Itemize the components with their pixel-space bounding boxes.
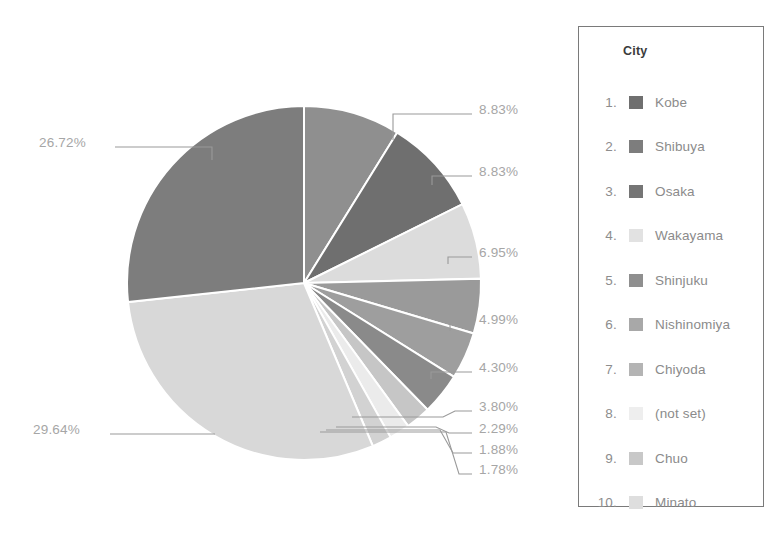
legend-item-index: 10. <box>591 495 617 510</box>
leader-line-1 <box>393 114 472 140</box>
legend-item-minato[interactable]: 10.Minato <box>579 481 763 526</box>
legend-swatch-icon <box>629 452 643 465</box>
slice-percent-label-11: 26.72% <box>39 135 86 150</box>
legend-item-kobe[interactable]: 1.Kobe <box>579 80 763 125</box>
legend-item-index: 8. <box>591 406 617 421</box>
slice-percent-label-5: 4.30% <box>479 360 518 375</box>
slice-percent-label-7: 2.29% <box>479 421 518 436</box>
slice-percent-label-1: 8.83% <box>479 102 518 117</box>
legend-item-label: Minato <box>655 495 696 510</box>
legend-item-index: 4. <box>591 228 617 243</box>
legend-item-label: Kobe <box>655 95 687 110</box>
legend-item-index: 2. <box>591 139 617 154</box>
legend-item-index: 3. <box>591 184 617 199</box>
legend-item-osaka[interactable]: 3.Osaka <box>579 169 763 214</box>
slice-percent-label-10: 29.64% <box>33 422 80 437</box>
legend-swatch-icon <box>629 185 643 198</box>
legend-item-index: 1. <box>591 95 617 110</box>
legend-box[interactable]: City 1.Kobe2.Shibuya3.Osaka4.Wakayama5.S… <box>578 26 764 507</box>
legend-item-chuo[interactable]: 9.Chuo <box>579 436 763 481</box>
legend-item-list[interactable]: 1.Kobe2.Shibuya3.Osaka4.Wakayama5.Shinju… <box>579 80 763 525</box>
pie-slice-group[interactable] <box>127 106 481 460</box>
legend-item-nishinomiya[interactable]: 6.Nishinomiya <box>579 303 763 348</box>
legend-swatch-icon <box>629 140 643 153</box>
legend-swatch-icon <box>629 407 643 420</box>
legend-item-label: (not set) <box>655 406 706 421</box>
pie-slice-11[interactable] <box>127 106 304 302</box>
legend-swatch-icon <box>629 318 643 331</box>
legend-item-index: 6. <box>591 317 617 332</box>
legend-swatch-icon <box>629 274 643 287</box>
legend-swatch-icon <box>629 496 643 509</box>
legend-item-not-set[interactable]: 8.(not set) <box>579 392 763 437</box>
legend-item-label: Nishinomiya <box>655 317 730 332</box>
legend-item-label: Shibuya <box>655 139 705 154</box>
legend-item-shinjuku[interactable]: 5.Shinjuku <box>579 258 763 303</box>
legend-item-index: 9. <box>591 451 617 466</box>
slice-percent-label-8: 1.88% <box>479 442 518 457</box>
slice-percent-label-9: 1.78% <box>479 462 518 477</box>
slice-percent-label-2: 8.83% <box>479 164 518 179</box>
legend-item-label: Shinjuku <box>655 273 708 288</box>
slice-percent-label-6: 3.80% <box>479 399 518 414</box>
legend-item-shibuya[interactable]: 2.Shibuya <box>579 125 763 170</box>
pie-chart-figure: 8.83% 8.83% 6.95% 4.99% 4.30% 3.80% 2.29… <box>0 0 784 546</box>
slice-percent-label-4: 4.99% <box>479 312 518 327</box>
legend-item-chiyoda[interactable]: 7.Chiyoda <box>579 347 763 392</box>
legend-item-index: 5. <box>591 273 617 288</box>
legend-swatch-icon <box>629 363 643 376</box>
legend-swatch-icon <box>629 96 643 109</box>
legend-item-index: 7. <box>591 362 617 377</box>
legend-item-label: Osaka <box>655 184 695 199</box>
legend-item-label: Chuo <box>655 451 688 466</box>
slice-percent-label-3: 6.95% <box>479 245 518 260</box>
legend-swatch-icon <box>629 229 643 242</box>
legend-item-label: Wakayama <box>655 228 723 243</box>
legend-item-label: Chiyoda <box>655 362 706 377</box>
legend-title: City <box>623 44 647 58</box>
legend-item-wakayama[interactable]: 4.Wakayama <box>579 214 763 259</box>
